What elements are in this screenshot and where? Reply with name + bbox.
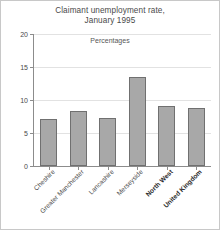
chart-figure: Claimant unemployment rate, January 1995…	[0, 0, 220, 230]
bar	[158, 106, 175, 166]
x-axis-category-labels: CheshireGreater ManchesterLancashireMers…	[34, 168, 211, 230]
chart-title-line-2: January 1995	[1, 16, 219, 26]
bar	[40, 119, 57, 166]
x-category-label: Cheshire	[32, 168, 56, 192]
bar	[70, 111, 87, 166]
y-tick-label: 0	[24, 163, 28, 170]
x-axis-line	[33, 166, 211, 167]
x-category-label: Merseyside	[115, 168, 144, 197]
x-category-label: Lancashire	[87, 168, 115, 196]
y-tick-mark	[30, 166, 34, 167]
y-tick-label: 15	[20, 64, 28, 71]
bar	[188, 108, 205, 166]
y-tick-label: 20	[20, 31, 28, 38]
bar	[99, 118, 116, 166]
y-tick-label: 10	[20, 97, 28, 104]
chart-title: Claimant unemployment rate, January 1995	[1, 6, 219, 26]
bar	[129, 77, 146, 166]
chart-title-line-1: Claimant unemployment rate,	[1, 6, 219, 16]
bars-layer	[34, 34, 211, 166]
y-tick-label: 5	[24, 130, 28, 137]
plot-area: 05101520	[34, 34, 211, 166]
x-category-label: North West	[144, 168, 174, 198]
